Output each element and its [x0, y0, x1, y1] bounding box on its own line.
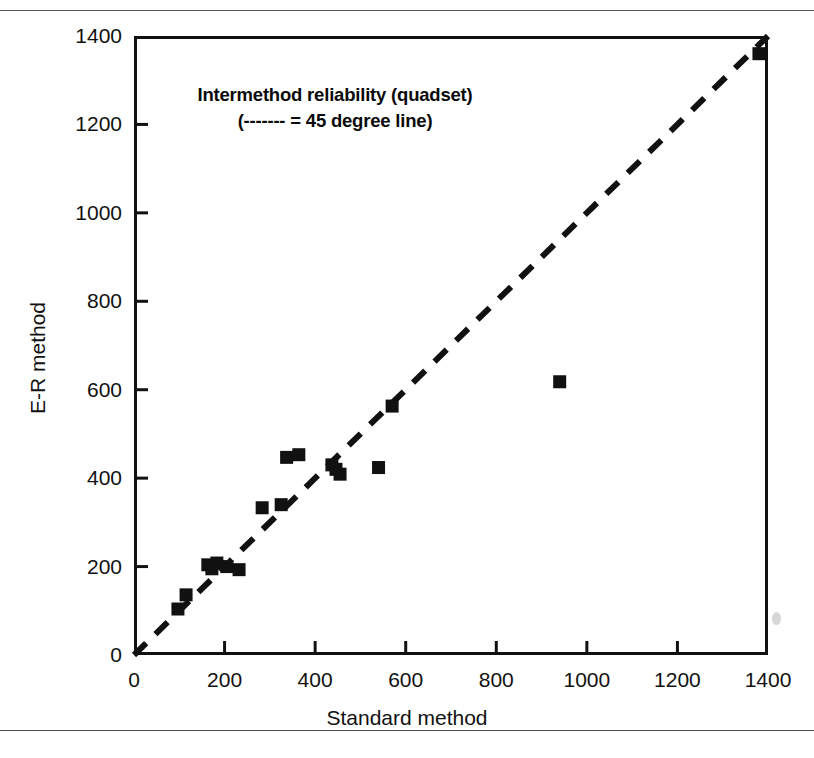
- y-axis-tick-label: 1000: [0, 201, 122, 225]
- y-axis-tick-label: 800: [0, 289, 122, 313]
- y-axis-tick-label: 600: [0, 378, 122, 402]
- y-axis-tick-label: 1400: [0, 24, 122, 48]
- x-axis-tick-label: 800: [456, 668, 536, 692]
- page-rule-top: [0, 10, 814, 11]
- x-axis-tick-label: 600: [366, 668, 446, 692]
- y-axis-tick-label: 400: [0, 466, 122, 490]
- page-rule-bottom: [0, 730, 814, 731]
- y-axis-tick-label: 0: [0, 643, 122, 667]
- x-axis-tick-label: 1000: [547, 668, 627, 692]
- chart-annotation: Intermethod reliability (quadset) (-----…: [170, 82, 500, 135]
- x-axis-tick-label: 1200: [637, 668, 717, 692]
- y-axis-tick-label: 200: [0, 555, 122, 579]
- x-axis-tick-label: 200: [185, 668, 265, 692]
- y-axis-title: E-R method: [26, 258, 50, 458]
- page-smudge: [772, 612, 781, 625]
- x-axis-tick-label: 1400: [728, 668, 808, 692]
- x-axis-title: Standard method: [0, 706, 814, 730]
- y-axis-tick-label: 1200: [0, 112, 122, 136]
- x-axis-tick-label: 0: [94, 668, 174, 692]
- chart-annotation-line1: Intermethod reliability (quadset): [197, 84, 472, 105]
- x-axis-tick-label: 400: [275, 668, 355, 692]
- figure-container: 0200400600800100012001400 02004006008001…: [0, 0, 814, 758]
- chart-annotation-line2: (------- = 45 degree line): [170, 108, 500, 134]
